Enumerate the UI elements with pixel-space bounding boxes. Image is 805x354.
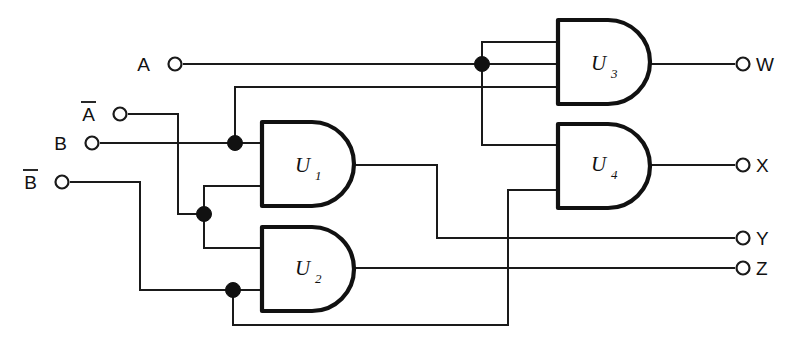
input-bbar-circle [56, 176, 69, 189]
output-x-circle [737, 159, 750, 172]
input-a-circle [169, 58, 182, 71]
junction-dot-b [228, 136, 243, 151]
input-terminal-b[interactable]: B [54, 133, 98, 154]
junction-dot-bbar [226, 283, 241, 298]
output-w-label: W [756, 54, 774, 75]
output-w-circle [737, 58, 750, 71]
output-terminal-w[interactable]: W [737, 54, 775, 75]
wire-a-to-u4 [482, 64, 558, 145]
wire-a-to-u3 [482, 42, 558, 64]
gate-u1[interactable]: U 1 [262, 122, 354, 206]
wire-u1-to-y [354, 165, 734, 238]
output-terminal-z[interactable]: Z [737, 258, 769, 279]
gate-u4[interactable]: U 4 [558, 124, 650, 208]
output-z-label: Z [756, 258, 768, 279]
output-z-circle [737, 262, 750, 275]
output-y-circle [737, 232, 750, 245]
gate-u3-label: U [591, 51, 608, 75]
input-terminal-abar[interactable]: A [81, 102, 127, 125]
gate-u1-subscript: 1 [315, 168, 322, 183]
output-terminal-x[interactable]: X [737, 155, 770, 176]
wire-abar-to-u1 [204, 186, 262, 214]
input-terminals-layer: A A B B [23, 54, 182, 193]
input-b-label: B [54, 133, 67, 154]
gate-u2-label: U [295, 256, 312, 280]
junction-dot-abar [197, 207, 212, 222]
input-a-label: A [137, 54, 150, 75]
wire-abar-to-u2 [204, 214, 262, 248]
output-y-label: Y [756, 228, 769, 249]
circuit-canvas: U 1 U 2 U 3 U 4 [0, 0, 805, 354]
gate-u4-label: U [591, 152, 608, 176]
input-abar-label: A [82, 104, 95, 125]
gate-u1-label: U [295, 153, 312, 177]
input-b-circle [86, 137, 99, 150]
junction-dot-a [475, 57, 490, 72]
gate-u2-subscript: 2 [315, 271, 322, 286]
input-bbar-label: B [24, 172, 37, 193]
output-terminals-layer: W X Y Z [737, 54, 775, 279]
input-terminal-bbar[interactable]: B [23, 170, 69, 193]
output-terminal-y[interactable]: Y [737, 228, 770, 249]
gate-u3-subscript: 3 [610, 66, 618, 81]
output-x-label: X [756, 155, 769, 176]
gate-u2[interactable]: U 2 [262, 227, 354, 311]
logic-circuit-diagram: U 1 U 2 U 3 U 4 [0, 0, 805, 354]
gate-u4-subscript: 4 [611, 167, 618, 182]
wire-bbar-main [71, 182, 262, 290]
gate-u3[interactable]: U 3 [558, 20, 650, 104]
input-abar-circle [114, 108, 127, 121]
input-terminal-a[interactable]: A [137, 54, 181, 75]
